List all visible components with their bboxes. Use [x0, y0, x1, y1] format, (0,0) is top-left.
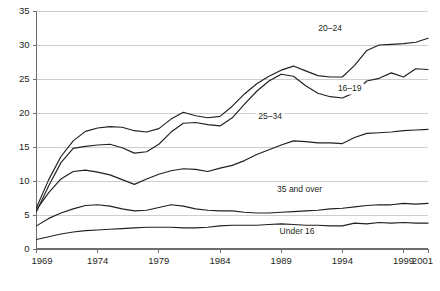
- y-axis-tick-labels: 05101520253035: [19, 5, 30, 254]
- x-tick-label-1989: 1989: [271, 255, 292, 266]
- x-tick-label-1969: 1969: [32, 255, 53, 266]
- y-tick-label-35: 35: [19, 5, 30, 16]
- series-label-25-34: 25–34: [258, 111, 282, 121]
- x-tick-label-1994: 1994: [332, 255, 353, 266]
- x-tick-label-1974: 1974: [87, 255, 108, 266]
- axes: [33, 11, 428, 253]
- x-tick-label-1979: 1979: [148, 255, 169, 266]
- x-tick-label-1984: 1984: [209, 255, 230, 266]
- series-label-16-19: 16–19: [338, 83, 362, 93]
- gridlines: [37, 11, 429, 249]
- x-tick-label-2001: 2001: [412, 255, 433, 266]
- series-label-under-16: Under 16: [280, 226, 315, 236]
- x-axis-tick-labels: 19691974197919841989199419992001: [32, 255, 434, 266]
- y-tick-label-25: 25: [19, 73, 30, 84]
- series-label-20-24: 20–24: [318, 23, 342, 33]
- y-tick-label-10: 10: [19, 175, 30, 186]
- series-line-20-24: [37, 38, 429, 207]
- series-annotations: 20–2416–1925–3435 and overUnder 16: [256, 23, 365, 238]
- line-chart: 05101520253035 1969197419791984198919941…: [0, 0, 440, 291]
- y-tick-label-30: 30: [19, 39, 30, 50]
- chart-canvas: 05101520253035 1969197419791984198919941…: [0, 0, 440, 291]
- series-line-under-16: [37, 222, 429, 239]
- y-tick-label-20: 20: [19, 107, 30, 118]
- y-tick-label-15: 15: [19, 141, 30, 152]
- series-line-25-34: [37, 129, 429, 209]
- series-label-35-and-over: 35 and over: [277, 184, 322, 194]
- data-series-lines: [37, 38, 429, 239]
- y-tick-label-0: 0: [24, 243, 29, 254]
- series-line-16-19: [37, 69, 429, 212]
- y-tick-label-5: 5: [24, 209, 29, 220]
